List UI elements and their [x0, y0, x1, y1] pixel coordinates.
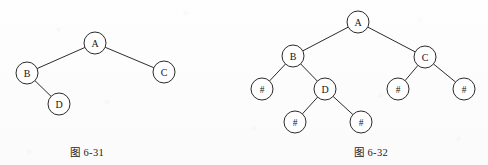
tree-edge: [368, 27, 416, 52]
tree-node: #: [350, 111, 372, 133]
tree-node-label: #: [396, 85, 401, 95]
tree-node: D: [314, 78, 336, 100]
figure-caption-6-32: 图 6-32: [354, 144, 388, 159]
tree-node-label: #: [359, 118, 364, 128]
tree-node: C: [153, 61, 175, 83]
tree-node-label: D: [321, 84, 328, 95]
tree-node-label: A: [354, 17, 362, 28]
tree-node: C: [414, 46, 436, 68]
figure-6-31: ABCD 图 6-31: [0, 0, 244, 165]
tree-node-label: #: [260, 85, 265, 95]
tree-node-label: #: [462, 85, 467, 95]
tree-node: #: [251, 78, 273, 100]
tree-node-label: C: [161, 67, 168, 78]
tree-edge: [434, 64, 456, 82]
figure-6-32: ABC#D#### 图 6-32: [244, 0, 488, 165]
tree-node-label: #: [293, 118, 298, 128]
tree-edge: [333, 96, 353, 114]
tree-edge: [105, 47, 154, 67]
scanned-page: ABCD 图 6-31 ABC#D#### 图 6-32: [0, 0, 488, 165]
tree-node: #: [284, 111, 306, 133]
tree-edge: [35, 81, 51, 97]
tree-edge: [37, 47, 85, 68]
binary-tree-diagram-6-32: ABC#D####: [244, 0, 488, 140]
tree-node-label: D: [55, 99, 62, 110]
tree-node: A: [84, 32, 106, 54]
figure-caption-6-31: 图 6-31: [70, 144, 104, 159]
tree-node-label: C: [422, 52, 429, 63]
binary-tree-diagram-6-31: ABCD: [0, 0, 244, 140]
tree-edge: [270, 64, 286, 81]
tree-edge: [405, 65, 418, 80]
tree-node: D: [48, 93, 70, 115]
tree-edge: [303, 27, 349, 51]
tree-node: A: [347, 11, 369, 33]
tree-edge: [302, 97, 317, 114]
tree-node: #: [387, 78, 409, 100]
tree-node: B: [282, 45, 304, 67]
tree-node-label: A: [91, 38, 99, 49]
tree-node-label: B: [24, 68, 31, 79]
tree-node-label: B: [290, 51, 297, 62]
tree-edge: [301, 64, 318, 81]
tree-node: #: [453, 78, 475, 100]
tree-node: B: [16, 62, 38, 84]
